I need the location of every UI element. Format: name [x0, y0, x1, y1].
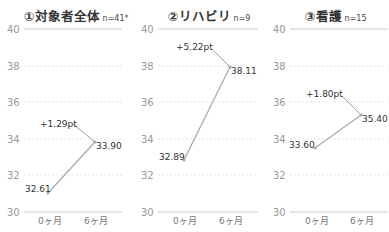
y-tick: 30	[141, 207, 154, 218]
line-chart: 40 38 36 34 32 30 33.60 35.40 +1.80pt 0ヶ…	[260, 0, 389, 232]
value-label: 32.61	[25, 184, 51, 194]
y-tick: 36	[141, 97, 154, 108]
y-tick: 30	[7, 207, 20, 218]
change-annotation: +1.29pt	[40, 119, 77, 129]
line-chart: 40 38 36 34 32 30 32.89 38.11 +5.22pt 0ヶ…	[130, 0, 260, 232]
value-label: 35.40	[362, 114, 388, 124]
x-tick: 0ヶ月	[38, 216, 62, 226]
y-tick: 38	[7, 61, 20, 72]
value-label: 32.89	[159, 152, 185, 162]
value-label: 33.60	[289, 140, 315, 150]
y-tick: 30	[273, 207, 286, 218]
y-tick: 40	[273, 24, 286, 35]
y-tick: 40	[141, 24, 154, 35]
chart-panel-rehab: ②リハビリn=9 40 38 36 34 32 30 32.89 38.11 +…	[130, 0, 260, 232]
y-tick: 32	[141, 170, 154, 181]
y-tick: 34	[7, 134, 20, 145]
change-annotation: +5.22pt	[176, 42, 213, 52]
y-tick: 34	[273, 134, 286, 145]
y-tick: 32	[273, 170, 286, 181]
line-chart: 40 38 36 34 32 30 32.61 33.90 +1.29pt 0ヶ…	[0, 0, 130, 232]
value-label: 38.11	[231, 66, 257, 76]
x-tick: 6ヶ月	[350, 216, 374, 226]
chart-panel-all: ①対象者全体n=41* 40 38 36 34 32 30 32.61 33.9…	[0, 0, 130, 232]
x-tick: 0ヶ月	[305, 216, 329, 226]
chart-panel-nursing: ③看護n=15 40 38 36 34 32 30 33.60 35.40 +1…	[260, 0, 389, 232]
y-tick: 34	[141, 134, 154, 145]
y-tick: 40	[7, 24, 20, 35]
y-tick: 32	[7, 170, 20, 181]
y-tick: 36	[7, 97, 20, 108]
x-tick: 0ヶ月	[173, 216, 197, 226]
y-tick: 36	[273, 97, 286, 108]
y-tick: 38	[273, 61, 286, 72]
y-tick: 38	[141, 61, 154, 72]
x-tick: 6ヶ月	[219, 216, 243, 226]
x-tick: 6ヶ月	[84, 216, 108, 226]
change-annotation: +1.80pt	[306, 89, 343, 99]
value-label: 33.90	[96, 141, 122, 151]
